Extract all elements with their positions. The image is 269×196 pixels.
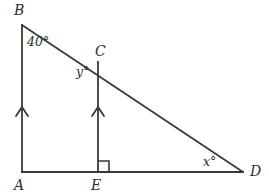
segment-BD [22, 25, 243, 172]
geometry-canvas [0, 0, 269, 196]
vertex-label-A: A [14, 178, 24, 192]
vertex-label-B: B [14, 3, 24, 17]
right-angle-mark-at-E [98, 161, 109, 172]
vertex-label-E: E [91, 178, 101, 192]
angle-label-40-degrees: 40° [27, 36, 49, 49]
vertex-label-C: C [95, 44, 106, 58]
angle-label-y-degrees: y° [76, 66, 89, 79]
vertex-label-D: D [250, 164, 261, 178]
geometry-figure: B C A E D 40° y° x° [0, 0, 269, 196]
angle-label-x-degrees: x° [203, 156, 216, 169]
